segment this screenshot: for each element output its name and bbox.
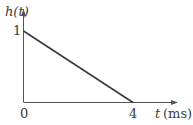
x-axis-unit: (ms) (163, 106, 192, 121)
x-tick-0: 0 (20, 106, 28, 121)
x-axis-arrow-icon (171, 100, 178, 105)
chart: h(t) 1 0 4 t (ms) (0, 0, 193, 125)
x-axis-var: t (155, 106, 161, 121)
y-tick-1: 1 (13, 23, 21, 38)
x-tick-4: 4 (129, 106, 137, 121)
y-axis-label: h(t) (5, 4, 29, 19)
h-t-line (24, 31, 134, 103)
